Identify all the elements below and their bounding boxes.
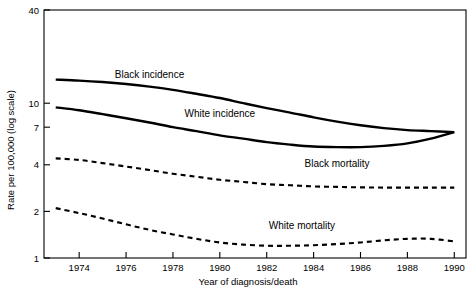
y-tick-label: 7 [34, 122, 39, 133]
x-tick-label: 1986 [350, 262, 371, 273]
series-label: White incidence [185, 108, 256, 119]
series-label: Black incidence [115, 69, 185, 80]
x-tick-label: 1978 [162, 262, 183, 273]
chart-background [0, 0, 476, 291]
x-tick-label: 1990 [444, 262, 465, 273]
x-tick-label: 1988 [397, 262, 418, 273]
x-tick-label: 1976 [115, 262, 136, 273]
series-label: White mortality [269, 220, 335, 231]
x-tick-label: 1980 [209, 262, 230, 273]
x-tick-label: 1982 [256, 262, 277, 273]
y-tick-label: 4 [34, 159, 39, 170]
line-chart: 12471040 1974197619781980198219841986198… [0, 0, 476, 291]
x-tick-label: 1984 [303, 262, 324, 273]
y-tick-label: 40 [28, 5, 39, 16]
y-tick-label: 1 [34, 253, 39, 264]
y-tick-label: 2 [34, 206, 39, 217]
y-axis-title: Rate per 100,000 (log scale) [5, 90, 16, 210]
chart-container: 12471040 1974197619781980198219841986198… [0, 0, 476, 291]
y-tick-label: 10 [28, 98, 39, 109]
x-tick-label: 1974 [69, 262, 90, 273]
x-axis-title: Year of diagnosis/death [199, 276, 298, 287]
series-label: Black mortality [305, 158, 370, 169]
